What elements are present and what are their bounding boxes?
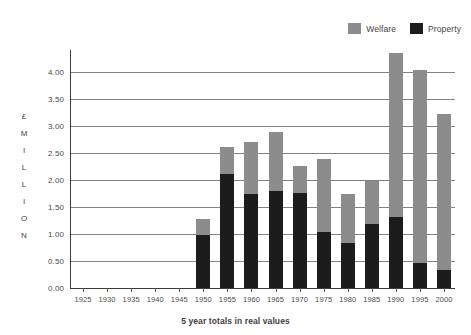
bar-group[interactable] [269, 132, 283, 288]
x-axis-tick-label: 1980 [339, 295, 356, 304]
bar-group[interactable] [244, 142, 258, 288]
x-axis-ticks [71, 288, 456, 293]
bar-segment-welfare[interactable] [437, 114, 451, 270]
x-axis-tick [107, 288, 108, 292]
y-axis-title-letter: I [23, 193, 25, 210]
x-axis-tick [179, 288, 180, 292]
x-axis-tick-label: 1970 [291, 295, 308, 304]
x-axis-tick-label: 1985 [363, 295, 380, 304]
y-axis-title-letter: N [21, 227, 27, 244]
x-axis-tick-label: 1940 [147, 295, 164, 304]
bar-segment-welfare[interactable] [244, 142, 258, 194]
bars-layer [71, 50, 455, 288]
bar-group[interactable] [196, 219, 210, 288]
bar-group[interactable] [341, 194, 355, 288]
bar-segment-property[interactable] [196, 235, 210, 288]
bar-group[interactable] [293, 166, 307, 288]
legend-entry-property: Property [410, 23, 461, 34]
x-axis-tick [83, 288, 84, 292]
y-axis-tick-label: 4.00 [48, 67, 64, 76]
x-axis-tick-label: 2000 [435, 295, 452, 304]
chart-legend: Welfare Property [348, 23, 461, 34]
plot-area [70, 50, 455, 288]
x-axis-tick [396, 288, 397, 292]
y-axis-tick-label: 0.50 [48, 256, 64, 265]
x-axis-title: 5 year totals in real values [0, 316, 471, 326]
bar-group[interactable] [437, 114, 451, 288]
bar-segment-welfare[interactable] [220, 147, 234, 174]
y-axis-title-letter: I [23, 142, 25, 159]
x-axis-tick-label: 1925 [74, 295, 91, 304]
bar-segment-welfare[interactable] [317, 159, 331, 233]
bar-segment-welfare[interactable] [269, 132, 283, 191]
y-axis-title-letter: L [22, 176, 26, 193]
y-axis-title-letter: O [21, 210, 27, 227]
x-axis-tick [131, 288, 132, 292]
bar-segment-property[interactable] [365, 224, 379, 288]
bar-segment-property[interactable] [437, 270, 451, 288]
bar-segment-welfare[interactable] [196, 219, 210, 235]
x-axis-tick-label: 1930 [99, 295, 116, 304]
bar-segment-property[interactable] [341, 243, 355, 288]
x-axis-tick-label: 1995 [411, 295, 428, 304]
x-axis-tick [324, 288, 325, 292]
bar-segment-welfare[interactable] [293, 166, 307, 193]
legend-label-welfare: Welfare [366, 24, 396, 34]
bar-group[interactable] [413, 70, 427, 289]
y-axis-tick-label: 1.00 [48, 229, 64, 238]
x-axis-tick [276, 288, 277, 292]
legend-swatch-property [410, 23, 423, 34]
bar-segment-property[interactable] [244, 194, 258, 288]
y-axis-tick-label: 2.00 [48, 175, 64, 184]
x-axis-tick-label: 1975 [315, 295, 332, 304]
bar-group[interactable] [365, 181, 379, 288]
y-axis-title-letter: M [21, 125, 28, 142]
x-axis-tick-labels: 1925193019351940194519501955196019651970… [71, 295, 456, 307]
bar-segment-welfare[interactable] [413, 70, 427, 263]
y-axis-title-letter: L [22, 159, 26, 176]
y-axis-tick-label: 1.50 [48, 202, 64, 211]
y-axis-tick-label: 2.50 [48, 148, 64, 157]
x-axis-tick [251, 288, 252, 292]
legend-label-property: Property [428, 24, 461, 34]
bar-segment-welfare[interactable] [341, 194, 355, 242]
x-axis-tick-label: 1945 [171, 295, 188, 304]
x-axis-tick-label: 1935 [123, 295, 140, 304]
x-axis-tick [420, 288, 421, 292]
bar-segment-property[interactable] [269, 191, 283, 288]
y-axis-tick-label: 3.50 [48, 94, 64, 103]
x-axis-tick [203, 288, 204, 292]
x-axis-tick [372, 288, 373, 292]
x-axis-tick [348, 288, 349, 292]
y-axis-tick-labels: 0.000.501.001.502.002.503.003.504.00 [28, 50, 64, 288]
x-axis-tick-label: 1950 [195, 295, 212, 304]
bar-segment-property[interactable] [220, 174, 234, 288]
x-axis-tick [444, 288, 445, 292]
bar-segment-property[interactable] [413, 263, 427, 288]
y-axis-tick-label: 3.00 [48, 121, 64, 130]
legend-swatch-welfare [348, 23, 361, 34]
bar-group[interactable] [389, 53, 403, 288]
x-axis-tick-label: 1990 [387, 295, 404, 304]
x-axis-tick [227, 288, 228, 292]
y-axis-title-letter: £ [22, 108, 26, 125]
legend-entry-welfare: Welfare [348, 23, 396, 34]
x-axis-tick [300, 288, 301, 292]
bar-segment-property[interactable] [317, 232, 331, 288]
x-axis-tick-label: 1965 [267, 295, 284, 304]
bar-group[interactable] [317, 159, 331, 288]
bar-group[interactable] [220, 147, 234, 288]
x-axis-tick [155, 288, 156, 292]
y-axis-tick-label: 0.00 [48, 284, 64, 293]
bar-segment-property[interactable] [293, 193, 307, 288]
x-axis-tick-label: 1960 [243, 295, 260, 304]
bar-segment-welfare[interactable] [389, 53, 403, 217]
x-axis-tick-label: 1955 [219, 295, 236, 304]
bar-segment-welfare[interactable] [365, 181, 379, 224]
bar-segment-property[interactable] [389, 217, 403, 288]
